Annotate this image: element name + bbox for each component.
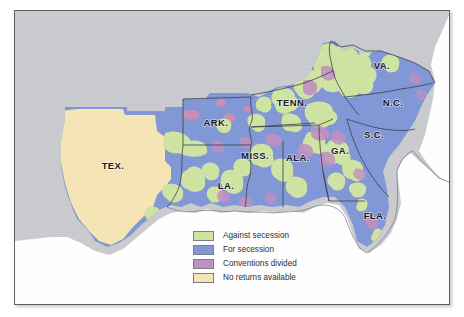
legend-label-against-secession: Against secession	[223, 231, 289, 241]
legend-swatch-against-secession	[193, 231, 214, 241]
legend-item-conventions-divided: Conventions divided	[193, 257, 343, 271]
state-label-va: VA.	[374, 60, 390, 71]
legend-swatch-for-secession	[193, 245, 214, 255]
state-label-tex: TEX.	[102, 160, 125, 171]
state-label-miss: MISS.	[241, 150, 269, 161]
figure-root: TEX. ARK. LA. MISS. ALA. TENN. GA. FLA. …	[0, 0, 464, 317]
state-label-ga: GA.	[331, 145, 349, 156]
state-label-nc: N.C.	[383, 97, 404, 108]
state-label-fla: FLA.	[364, 210, 387, 221]
legend-label-conventions-divided: Conventions divided	[223, 259, 297, 269]
legend-swatch-conventions-divided	[193, 259, 214, 269]
legend-item-no-returns-available: No returns available	[193, 271, 343, 285]
state-label-tenn: TENN.	[277, 97, 308, 108]
state-label-la: LA.	[218, 180, 235, 191]
state-label-ala: ALA.	[286, 152, 310, 163]
map-plate: TEX. ARK. LA. MISS. ALA. TENN. GA. FLA. …	[14, 10, 450, 305]
state-label-ark: ARK.	[204, 117, 229, 128]
legend-label-no-returns-available: No returns available	[223, 273, 296, 283]
legend-swatch-no-returns-available	[193, 273, 214, 283]
map-legend: Against secession For secession Conventi…	[193, 229, 343, 293]
legend-item-for-secession: For secession	[193, 243, 343, 257]
legend-label-for-secession: For secession	[223, 245, 274, 255]
state-label-sc: S.C.	[364, 129, 384, 140]
legend-item-against-secession: Against secession	[193, 229, 343, 243]
